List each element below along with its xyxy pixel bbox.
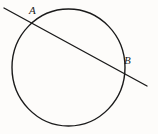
secant-line-shape xyxy=(4,8,147,86)
point-label-b: B xyxy=(124,55,131,66)
geometry-canvas xyxy=(0,0,158,134)
geometry-figure: A B xyxy=(0,0,158,134)
circle-shape xyxy=(12,9,125,126)
point-label-a: A xyxy=(29,5,36,16)
